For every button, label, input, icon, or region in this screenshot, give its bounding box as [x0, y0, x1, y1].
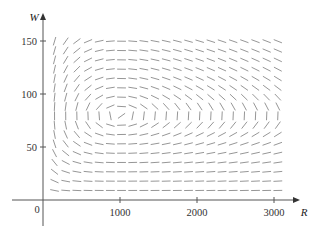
- slope-segment: [241, 49, 248, 52]
- slope-segment: [229, 49, 236, 52]
- slope-segment: [65, 93, 67, 101]
- slope-segment: [140, 68, 148, 69]
- slope-segment: [219, 86, 226, 90]
- slope-segment: [151, 40, 159, 41]
- slope-segment: [73, 161, 81, 163]
- slope-segment: [85, 85, 91, 90]
- slope-segment: [96, 86, 103, 89]
- slope-segment: [84, 162, 92, 163]
- slope-segment: [129, 105, 136, 108]
- slope-segment: [151, 95, 158, 99]
- slope-segment: [231, 103, 235, 110]
- slope-segment: [73, 171, 81, 172]
- slope-segment: [263, 49, 270, 52]
- slope-segment: [151, 133, 159, 135]
- slope-segment: [74, 75, 79, 81]
- slope-segment: [196, 68, 203, 71]
- slope-segment: [106, 78, 114, 79]
- slope-segment: [95, 162, 103, 163]
- slope-segment: [218, 152, 226, 154]
- slope-segment: [229, 40, 237, 43]
- slope-segment: [73, 152, 80, 155]
- slope-segment: [229, 143, 237, 145]
- slope-segment: [274, 40, 281, 43]
- slope-segment: [151, 153, 159, 154]
- slope-segment: [241, 94, 247, 100]
- slope-segment: [162, 59, 170, 61]
- slope-segment: [54, 75, 56, 83]
- slope-segment: [218, 143, 226, 145]
- x-tick-label-2000: 2000: [187, 207, 208, 218]
- slope-segment: [207, 49, 215, 52]
- slope-segment: [174, 133, 181, 136]
- slope-segment: [106, 87, 114, 88]
- slope-segment: [218, 68, 225, 71]
- slope-segment: [230, 58, 237, 61]
- slope-segment: [106, 144, 114, 145]
- slope-segment: [196, 162, 204, 163]
- slope-segment: [276, 122, 281, 128]
- slope-segment: [140, 87, 148, 89]
- slope-segment: [54, 56, 56, 64]
- slope-segment: [164, 104, 169, 110]
- slope-segment: [274, 67, 281, 71]
- slope-segment: [263, 152, 271, 154]
- slope-segment: [151, 143, 159, 144]
- slope-segment: [263, 67, 270, 71]
- slope-segment: [74, 131, 79, 137]
- slope-segment: [185, 172, 193, 173]
- slope-segment: [263, 171, 271, 172]
- slope-segment: [185, 77, 192, 80]
- slope-segment: [252, 162, 260, 163]
- slope-segment: [74, 66, 80, 72]
- slope-segment: [95, 77, 103, 80]
- slope-segment: [62, 161, 69, 165]
- slope-segment: [207, 143, 215, 145]
- slope-segment: [151, 59, 159, 61]
- slope-segment: [152, 104, 158, 109]
- slope-segment: [51, 180, 58, 183]
- slope-segment: [207, 152, 215, 153]
- slope-segment: [54, 65, 56, 73]
- slope-segment: [51, 190, 59, 192]
- slope-segment: [54, 93, 55, 101]
- slope-segment: [162, 153, 170, 154]
- slope-segment: [110, 112, 112, 120]
- slope-segment: [196, 143, 204, 145]
- slope-segment: [175, 103, 180, 109]
- slope-segment: [275, 94, 281, 100]
- slope-segment: [84, 152, 92, 154]
- slope-segment: [64, 84, 67, 92]
- slope-segment: [106, 41, 114, 42]
- slope-segment: [132, 112, 134, 120]
- slope-segment: [196, 49, 204, 51]
- slope-segment: [95, 50, 103, 52]
- slope-segment: [173, 143, 181, 145]
- slope-segment: [185, 153, 193, 154]
- slope-segment: [162, 133, 170, 136]
- slope-segment: [197, 95, 203, 100]
- slope-segment: [85, 67, 92, 71]
- slope-segment: [129, 59, 137, 60]
- slope-segment: [174, 77, 181, 80]
- slope-segment: [84, 58, 91, 62]
- direction-field-chart: 1000 2000 3000 50 100 150 0 R W: [0, 0, 316, 237]
- slope-segment: [218, 171, 226, 172]
- slope-segment: [53, 37, 55, 45]
- slope-segment: [207, 162, 215, 163]
- slope-segment: [185, 162, 193, 163]
- slope-segment: [241, 67, 248, 70]
- slope-segment: [207, 58, 214, 61]
- slope-segment: [84, 49, 91, 52]
- slope-segment: [95, 133, 103, 136]
- slope-segment: [140, 123, 147, 127]
- slope-segment: [64, 66, 68, 73]
- slope-segment: [263, 85, 269, 90]
- slope-segment: [274, 142, 282, 145]
- slope-segment: [162, 68, 170, 70]
- slope-segment: [207, 86, 214, 90]
- slope-segment: [162, 162, 170, 163]
- slope-segment: [252, 58, 259, 61]
- slope-segment: [162, 40, 170, 42]
- slope-segment: [151, 162, 159, 163]
